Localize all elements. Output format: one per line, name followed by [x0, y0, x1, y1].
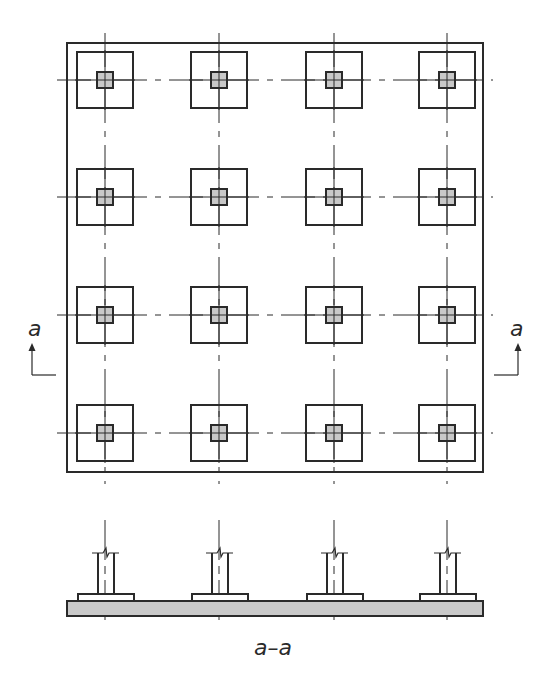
section-pad — [420, 594, 476, 601]
section-pad — [307, 594, 363, 601]
section-pad — [192, 594, 248, 601]
section-slab — [67, 601, 483, 616]
section-mark-right-label: a — [510, 318, 523, 340]
section-mark-arrow-icon — [29, 343, 57, 375]
section-view — [67, 520, 483, 625]
footing-diagram — [0, 0, 549, 688]
section-pad — [78, 594, 134, 601]
section-mark-left-label: a — [28, 318, 41, 340]
plan-view — [29, 33, 522, 484]
section-mark-arrow-icon — [494, 343, 522, 375]
section-title: a–a — [254, 637, 292, 659]
